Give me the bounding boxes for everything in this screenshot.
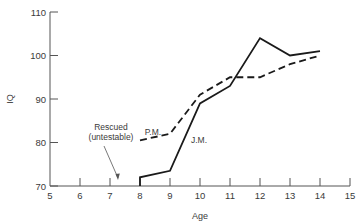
series-line-jm: [140, 38, 320, 186]
x-tick-label: 15: [345, 190, 356, 201]
annotation-untestable: (untestable): [89, 132, 134, 142]
annotation-arrow-icon: [104, 146, 120, 180]
y-tick-label: 90: [35, 94, 46, 105]
x-tick-label: 13: [285, 190, 296, 201]
x-axis-title: Age: [192, 211, 208, 221]
series-label-jm: J.M.: [191, 135, 207, 145]
iq-age-chart: 70809010011056789101112131415 IQ Age P.M…: [0, 0, 363, 224]
x-tick-label: 6: [77, 190, 82, 201]
series-line-pm: [140, 56, 320, 141]
x-tick-label: 7: [107, 190, 112, 201]
y-tick-label: 70: [35, 181, 46, 192]
x-tick-label: 12: [255, 190, 266, 201]
x-tick-label: 11: [225, 190, 235, 201]
x-tick-label: 10: [195, 190, 206, 201]
data-lines: [140, 38, 320, 186]
y-tick-label: 100: [30, 50, 46, 61]
y-tick-label: 110: [31, 7, 46, 18]
x-tick-label: 5: [47, 190, 52, 201]
y-tick-label: 80: [35, 137, 46, 148]
y-axis-title: IQ: [5, 94, 15, 104]
series-label-pm: P.M.: [145, 127, 161, 137]
annotation-rescued: Rescued: [94, 122, 128, 132]
x-tick-label: 8: [137, 190, 142, 201]
x-tick-label: 9: [167, 190, 172, 201]
x-tick-label: 14: [315, 190, 326, 201]
axes: [50, 12, 350, 186]
